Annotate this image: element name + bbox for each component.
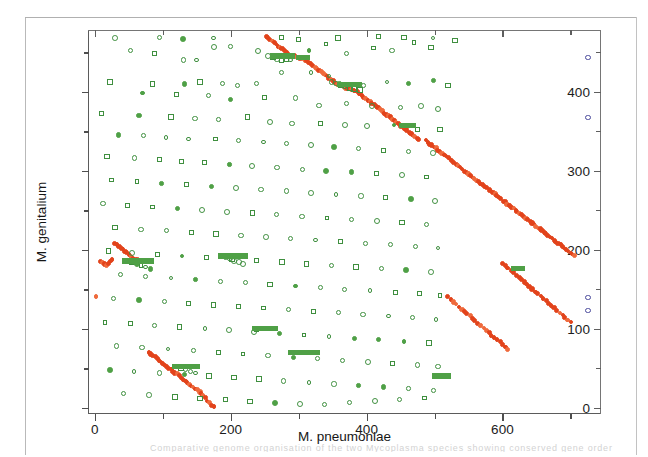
data-point [417,291,422,296]
data-point [108,259,112,263]
data-point [456,163,461,168]
data-point [229,253,235,259]
data-point [343,82,349,88]
data-point [312,350,318,356]
data-point [118,272,123,277]
data-point [193,387,197,391]
data-point [536,226,540,230]
data-point [137,258,143,264]
data-point [305,350,311,356]
data-point [136,113,141,118]
data-point [539,294,543,298]
data-point [327,74,331,78]
data-point [398,105,404,111]
data-point [349,169,355,175]
data-point [514,208,519,213]
data-point [361,83,366,88]
data-point [342,287,347,292]
data-point [498,196,503,201]
data-point [402,339,407,344]
data-point [254,258,259,263]
data-point [533,224,538,229]
data-point [345,82,351,88]
data-point [385,80,390,85]
data-point [445,83,451,89]
data-point [192,116,198,122]
data-point [386,113,391,118]
data-point [94,294,99,299]
data-point [509,205,513,209]
data-point [265,353,270,358]
data-point [424,175,428,179]
data-point [308,190,314,196]
data-point [148,258,154,264]
data-point [489,333,493,337]
data-point [281,378,287,384]
data-point [521,214,526,219]
data-point [484,328,489,333]
data-point [146,392,152,398]
data-point [204,255,209,260]
data-point [401,125,405,129]
data-point [404,123,410,129]
data-point [507,203,511,207]
data-point [234,253,240,259]
data-point [570,252,575,257]
data-point [190,364,196,370]
x-tick-major [95,414,96,421]
data-point [503,345,507,349]
data-point [444,154,448,158]
data-point [357,87,363,93]
data-point [504,202,509,207]
data-point [298,55,304,61]
data-point [344,51,349,56]
data-point [227,253,233,259]
data-point [308,142,314,148]
data-point [125,203,131,209]
data-point [448,157,452,161]
data-point [225,253,231,259]
data-point [341,82,347,88]
data-point [288,58,292,62]
data-point [388,114,393,119]
data-point [482,184,487,189]
data-point [311,309,316,314]
data-point [289,121,294,126]
data-point [376,337,381,342]
data-point [272,400,278,406]
x-tick-minor [570,414,571,419]
data-point [325,74,330,79]
data-point [358,193,363,198]
data-point [174,92,179,97]
data-point [468,313,473,318]
data-point [168,114,174,120]
data-point [157,370,163,376]
data-point [484,185,489,190]
data-point [121,247,125,251]
data-point [142,258,148,264]
data-point [501,199,506,204]
data-point [426,340,432,346]
data-point [345,86,350,91]
data-point [136,297,141,302]
data-point [183,379,187,383]
data-point [364,123,370,129]
data-point [380,108,385,113]
data-point [193,277,198,282]
data-point [279,46,285,52]
data-point [122,258,128,264]
data-point [218,279,223,284]
data-point [218,253,224,259]
data-point [216,350,222,356]
data-point [323,73,328,78]
data-point [139,258,145,264]
data-point [293,95,298,100]
data-point [197,389,203,395]
data-point [490,190,496,196]
data-point [179,376,184,381]
data-point [205,399,209,403]
data-point [343,86,348,91]
data-point [538,226,543,231]
data-point [261,140,266,145]
data-point [128,258,134,264]
